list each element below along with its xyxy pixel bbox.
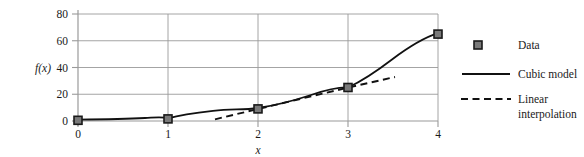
data-marker-2 [254,105,262,113]
y-axis-title: f(x) [35,62,51,75]
xtick-label-2: 2 [255,128,261,140]
legend-label-linear: Linear [518,93,548,105]
ytick-label-40: 40 [57,62,69,74]
xtick-label-3: 3 [345,128,351,140]
xtick-label-1: 1 [165,128,171,140]
series-linear-interpolation [215,77,395,119]
xtick-label-0: 0 [75,128,81,140]
chart-figure: 80 60 40 20 0 0 1 2 3 4 f(x) x Data [0,0,584,157]
data-marker-3 [344,84,352,92]
data-marker-0 [74,116,82,124]
legend-square-marker-icon [474,41,482,49]
x-axis-title: x [254,144,261,156]
data-marker-1 [164,115,172,123]
y-axis-ticks [72,14,78,121]
data-marker-4 [434,30,442,38]
xtick-label-4: 4 [435,128,441,140]
ytick-label-80: 80 [57,8,69,20]
chart-svg: 80 60 40 20 0 0 1 2 3 4 f(x) x Data [0,0,584,157]
ytick-label-60: 60 [57,35,69,47]
ytick-label-0: 0 [62,115,68,127]
x-axis-ticks [78,121,438,127]
legend-label-data: Data [518,39,540,51]
legend-label-cubic-model: Cubic model [518,68,577,80]
ytick-label-20: 20 [57,88,69,100]
legend-label-interpolation: interpolation [518,108,577,121]
chart-legend: Data Cubic model Linear interpolation [461,39,577,121]
